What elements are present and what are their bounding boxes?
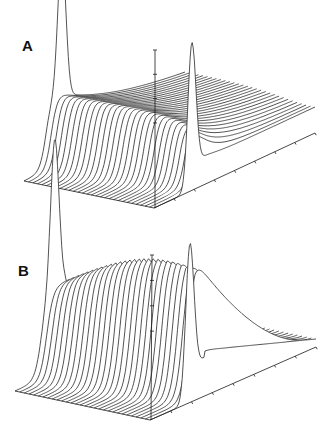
x-axis-tick <box>295 356 296 358</box>
x-axis-tick <box>233 384 234 386</box>
figure: A B <box>0 0 333 430</box>
panel-a-label: A <box>22 37 33 54</box>
x-axis-tick <box>214 180 215 182</box>
x-axis-tick <box>192 402 193 404</box>
x-axis-tick <box>275 152 276 154</box>
x-axis-tick <box>235 171 236 173</box>
x-axis-tick <box>295 142 296 144</box>
x-axis-tick <box>315 133 316 135</box>
x-axis-tick <box>171 411 172 413</box>
x-axis-tick <box>316 347 317 349</box>
panel-a-waterfall-plot <box>24 0 316 208</box>
x-axis-tick <box>174 199 175 201</box>
panel-b-label: B <box>18 262 29 279</box>
x-axis-tick <box>254 374 255 376</box>
x-axis-tick <box>212 393 213 395</box>
x-axis-tick <box>194 189 195 191</box>
x-axis-tick <box>275 365 276 367</box>
x-axis-tick <box>255 161 256 163</box>
